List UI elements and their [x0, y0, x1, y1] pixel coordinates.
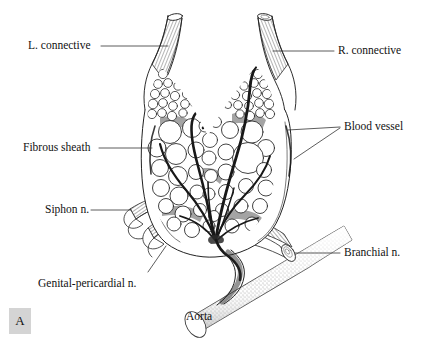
neuron-cell-mass — [147, 64, 277, 245]
leader-blood-vessel-b — [294, 128, 340, 159]
label-siphon-n: Siphon n. — [45, 204, 89, 216]
label-aorta: Aorta — [186, 311, 212, 323]
label-branchial-n: Branchial n. — [344, 247, 400, 259]
panel-letter: A — [9, 308, 31, 334]
label-r-connective: R. connective — [338, 45, 401, 57]
leader-genital-pericardial-n — [148, 246, 166, 272]
label-genital-pericardial-n: Genital-pericardial n. — [38, 278, 136, 290]
anatomical-figure: L. connective R. connective Blood vessel… — [0, 0, 431, 343]
label-l-connective: L. connective — [28, 40, 91, 52]
label-blood-vessel: Blood vessel — [344, 121, 403, 133]
leader-blood-vessel-a — [288, 127, 340, 130]
label-fibrous-sheath: Fibrous sheath — [23, 142, 90, 154]
